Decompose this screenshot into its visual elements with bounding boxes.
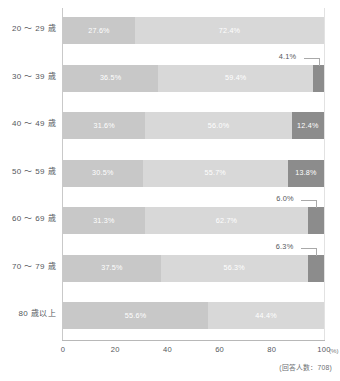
bar-segment-value: 55.7% bbox=[205, 169, 226, 176]
bar-segment-value: 27.6% bbox=[88, 27, 109, 34]
stacked-bar: 55.6%44.4% bbox=[63, 302, 324, 329]
stacked-bar: 31.3%62.7% bbox=[63, 207, 324, 234]
bar-segment: 59.4% bbox=[158, 65, 313, 92]
bar-row-label: 80 歳以上 bbox=[0, 307, 56, 318]
bar-row: 60 ～ 69 歳31.3%62.7%6.0% bbox=[0, 198, 340, 244]
bar-row-label: 20 ～ 29 歳 bbox=[0, 22, 56, 33]
respondent-count-footnote: (回答人数：708) bbox=[279, 362, 332, 372]
callout-leader-line bbox=[304, 58, 320, 66]
bar-segment: 30.5% bbox=[63, 160, 143, 187]
bar-row: 80 歳以上55.6%44.4% bbox=[0, 293, 340, 339]
bar-segment-value: 55.6% bbox=[125, 312, 146, 319]
x-axis-tick: 60 bbox=[215, 345, 224, 354]
bar-segment-value: 30.5% bbox=[92, 169, 113, 176]
callout-leader-line bbox=[301, 248, 317, 256]
bar-segment: 31.3% bbox=[63, 207, 145, 234]
bar-segment bbox=[308, 207, 324, 234]
segment-callout-label: 6.3% bbox=[276, 242, 294, 251]
stacked-bar: 37.5%56.3% bbox=[63, 255, 324, 282]
bar-segment-value: 62.7% bbox=[216, 217, 237, 224]
stacked-bar: 30.5%55.7%13.8% bbox=[63, 160, 324, 187]
bar-segment-value: 56.0% bbox=[208, 122, 229, 129]
bar-segment: 31.6% bbox=[63, 112, 145, 139]
bar-segment: 62.7% bbox=[145, 207, 309, 234]
bar-row: 30 ～ 39 歳36.5%59.4%4.1% bbox=[0, 56, 340, 102]
bar-segment: 13.8% bbox=[288, 160, 324, 187]
bar-segment: 12.4% bbox=[292, 112, 324, 139]
bar-segment-value: 36.5% bbox=[100, 74, 121, 81]
bar-segment-value: 31.6% bbox=[94, 122, 115, 129]
bar-segment bbox=[308, 255, 324, 282]
segment-callout-label: 4.1% bbox=[279, 52, 297, 61]
stacked-bar: 36.5%59.4% bbox=[63, 65, 324, 92]
x-axis-tick: 20 bbox=[111, 345, 120, 354]
bar-row: 70 ～ 79 歳37.5%56.3%6.3% bbox=[0, 246, 340, 292]
bar-segment: 55.6% bbox=[63, 302, 208, 329]
bar-segment-value: 72.4% bbox=[219, 27, 240, 34]
bar-row-label: 70 ～ 79 歳 bbox=[0, 260, 56, 271]
bar-segment-value: 31.3% bbox=[93, 217, 114, 224]
bar-row-label: 30 ～ 39 歳 bbox=[0, 70, 56, 81]
stacked-bar: 31.6%56.0%12.4% bbox=[63, 112, 324, 139]
bar-segment bbox=[313, 65, 324, 92]
bar-segment-value: 59.4% bbox=[225, 74, 246, 81]
segment-callout-label: 6.0% bbox=[276, 194, 294, 203]
bar-row-label: 60 ～ 69 歳 bbox=[0, 212, 56, 223]
bar-row: 40 ～ 49 歳31.6%56.0%12.4% bbox=[0, 103, 340, 149]
bar-segment: 72.4% bbox=[135, 17, 324, 44]
bar-row: 50 ～ 59 歳30.5%55.7%13.8% bbox=[0, 151, 340, 197]
x-axis-tick: 40 bbox=[163, 345, 172, 354]
x-axis-tick: 80 bbox=[267, 345, 276, 354]
bar-segment: 37.5% bbox=[63, 255, 161, 282]
bar-segment-value: 44.4% bbox=[255, 312, 276, 319]
bar-row: 20 ～ 29 歳27.6%72.4% bbox=[0, 8, 340, 54]
x-axis-line bbox=[62, 340, 325, 341]
stacked-bar-chart: 20 ～ 29 歳27.6%72.4%30 ～ 39 歳36.5%59.4%4.… bbox=[0, 0, 340, 381]
bar-row-label: 40 ～ 49 歳 bbox=[0, 117, 56, 128]
bar-segment: 36.5% bbox=[63, 65, 158, 92]
bar-row-label: 50 ～ 59 歳 bbox=[0, 165, 56, 176]
bar-segment-value: 12.4% bbox=[297, 122, 318, 129]
bar-segment-value: 13.8% bbox=[295, 169, 316, 176]
bar-segment-value: 56.3% bbox=[223, 264, 244, 271]
x-axis-unit-label: (%) bbox=[329, 347, 339, 354]
stacked-bar: 27.6%72.4% bbox=[63, 17, 324, 44]
bar-segment: 56.3% bbox=[161, 255, 308, 282]
x-axis-tick: 0 bbox=[61, 345, 65, 354]
bar-segment: 27.6% bbox=[63, 17, 135, 44]
bar-segment: 56.0% bbox=[145, 112, 291, 139]
bar-segment-value: 37.5% bbox=[101, 264, 122, 271]
callout-leader-line bbox=[301, 200, 317, 208]
bar-segment: 55.7% bbox=[143, 160, 288, 187]
bar-segment: 44.4% bbox=[208, 302, 324, 329]
